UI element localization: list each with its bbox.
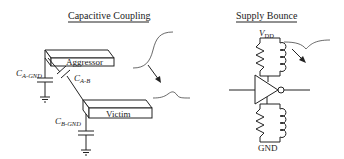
- cap-a-b-label: CA-B: [74, 73, 90, 84]
- victim-noise-waveform: [153, 92, 190, 98]
- capacitive-coupling-title-group: Capacitive Coupling: [68, 10, 151, 22]
- inductor-icon: [280, 42, 286, 71]
- diagram-canvas: Capacitive Coupling Aggressor Victim CA-…: [0, 0, 344, 159]
- vdd-rl-network: [256, 38, 286, 82]
- aggressor-label: Aggressor: [66, 57, 103, 67]
- arrow-down-right-icon: [292, 49, 306, 63]
- vdd-label: VDD: [259, 28, 274, 39]
- cap-a-gnd-label: CA-GND: [16, 68, 42, 79]
- victim-wire: Victim: [83, 100, 152, 119]
- inductor-icon: [280, 109, 286, 138]
- resistor-icon: [256, 43, 264, 71]
- supply-bounce-title-group: Supply Bounce: [236, 10, 298, 22]
- cap-b-gnd-label: CB-GND: [55, 116, 81, 127]
- arrow-down-right-icon: [148, 65, 161, 83]
- supply-bounce-title: Supply Bounce: [236, 10, 298, 21]
- capacitor-a-gnd: CA-GND: [16, 58, 53, 102]
- inverter-bubble: [278, 87, 284, 93]
- capacitor-b-gnd: CB-GND: [55, 114, 94, 155]
- inverter-gate: [229, 75, 310, 104]
- gnd-rl-network: [256, 97, 286, 142]
- aggressor-wire: Aggressor: [45, 50, 114, 67]
- victim-label: Victim: [106, 109, 130, 119]
- cap-plate-2: [61, 70, 70, 78]
- aggressor-waveform: [133, 32, 173, 68]
- capacitive-coupling-title: Capacitive Coupling: [68, 10, 151, 21]
- supply-bounce-waveform: [284, 40, 330, 49]
- ground-icon: [81, 150, 91, 155]
- gnd-label: GND: [258, 143, 278, 153]
- resistor-icon: [256, 109, 264, 137]
- ground-icon: [40, 97, 50, 102]
- victim-top-face: [83, 100, 152, 108]
